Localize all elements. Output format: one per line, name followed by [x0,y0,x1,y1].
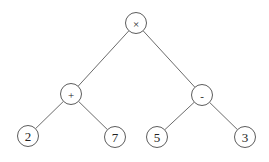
operand-label: 2 [25,129,32,144]
tree-node-plus: + [61,84,82,105]
nodes-layer: ×+-2753 [18,13,256,148]
operator-label: × [133,18,139,30]
operand-label: 7 [112,130,119,145]
edge-minus-n3 [210,102,238,129]
edge-minus-n5 [165,102,195,130]
tree-node-n5: 5 [147,127,168,148]
edges-layer [36,31,238,130]
edge-root-plus [78,31,129,87]
edge-plus-n7 [79,101,108,129]
operand-label: 5 [154,130,161,145]
tree-node-n3: 3 [235,127,256,148]
operator-label: + [68,89,74,101]
edge-plus-n2 [36,101,64,128]
edge-root-minus [143,31,195,88]
tree-node-n2: 2 [18,126,39,147]
tree-node-minus: - [192,85,213,106]
operator-label: - [200,90,204,102]
expression-tree-diagram: ×+-2753 [0,0,269,162]
tree-node-n7: 7 [105,127,126,148]
tree-node-root: × [126,13,147,34]
operand-label: 3 [242,130,249,145]
